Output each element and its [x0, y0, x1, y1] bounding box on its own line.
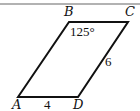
angle-b-label: 125°: [70, 24, 95, 39]
vertex-label-d: D: [72, 97, 84, 111]
vertex-label-b: B: [63, 4, 74, 19]
parallelogram-diagram: B C A D 125° 4 6: [0, 0, 140, 111]
side-cd-length: 6: [105, 54, 112, 69]
vertex-label-c: C: [125, 4, 135, 19]
side-ad-length: 4: [44, 97, 51, 111]
vertex-label-a: A: [11, 97, 21, 111]
